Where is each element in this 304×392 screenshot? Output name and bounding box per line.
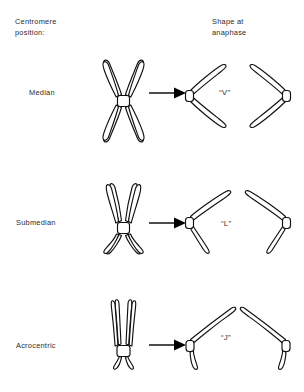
- chromatid-arm: [191, 64, 227, 95]
- chromatid-arm: [191, 226, 209, 253]
- row-submedian-anaphase-right: [245, 191, 290, 254]
- centromere: [186, 341, 194, 352]
- row-submedian-metaphase-chromosome: [104, 184, 143, 254]
- arrow-head: [174, 340, 186, 351]
- row-median-metaphase-chromosome: [103, 60, 144, 142]
- centromere: [117, 346, 130, 357]
- arrow-head: [174, 88, 186, 99]
- centromere: [282, 341, 290, 352]
- row-median-anaphase-left: [186, 64, 227, 127]
- short-arm-satellite: [114, 356, 122, 369]
- centromere: [186, 91, 194, 102]
- centromere: [186, 218, 194, 229]
- row-acrocentric-metaphase-chromosome: [111, 300, 136, 369]
- figure-artwork: [0, 0, 304, 392]
- short-arm-satellite: [126, 356, 134, 369]
- row-acrocentric-anaphase-left: [186, 307, 236, 369]
- chromatid-arm: [240, 307, 285, 344]
- chromatid-arm: [250, 64, 286, 95]
- row-acrocentric-anaphase-right: [240, 307, 290, 369]
- centromere: [283, 218, 291, 229]
- chromatid-arm: [250, 97, 286, 128]
- row-submedian-arrow: [149, 218, 186, 229]
- chromatid-arm: [267, 226, 285, 253]
- row-submedian-anaphase-left: [186, 191, 231, 254]
- chromosome-anaphase-figure: Centromere position: Shape at anaphase M…: [0, 0, 304, 392]
- short-arm-satellite: [190, 350, 198, 369]
- chromatid-arm: [191, 191, 231, 221]
- chromatid-arm: [191, 97, 227, 128]
- chromatid-arm: [245, 191, 285, 221]
- centromere: [118, 96, 130, 107]
- short-arm-satellite: [278, 350, 286, 369]
- centromere: [118, 223, 130, 234]
- row-acrocentric-arrow: [149, 340, 186, 351]
- row-median-arrow: [149, 88, 186, 99]
- row-median-anaphase-right: [250, 64, 291, 127]
- chromatid-arm: [191, 307, 236, 344]
- arrow-head: [174, 218, 186, 229]
- centromere: [283, 91, 291, 102]
